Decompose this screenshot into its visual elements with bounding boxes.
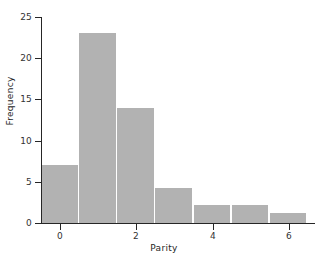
bar [155,188,192,223]
y-tick-mark [35,141,41,142]
y-tick-label: 0 [26,219,35,228]
y-tick-label: 5 [26,178,35,187]
plot-area [41,17,308,223]
histogram-figure: 0510152025 0246 Parity Frequency [0,0,328,254]
y-tick-mark [35,223,41,224]
x-tick-label: 4 [203,232,223,241]
x-tick-mark [213,224,214,230]
bar [270,213,307,223]
x-axis-line [41,223,315,224]
bar [41,165,78,223]
y-tick-label: 10 [20,137,35,146]
bar [117,108,154,223]
x-tick-label: 2 [126,232,146,241]
y-axis-label: Frequency [5,56,15,146]
y-tick-label: 25 [20,13,35,22]
y-tick-mark [35,58,41,59]
y-tick-label: 20 [20,54,35,63]
x-tick-mark [60,224,61,230]
bar [194,205,231,223]
y-tick-mark [35,99,41,100]
x-tick-label: 0 [50,232,70,241]
y-tick-mark [35,17,41,18]
bar [79,33,116,223]
y-tick-label: 15 [20,95,35,104]
x-tick-mark [136,224,137,230]
x-axis-label: Parity [0,243,328,253]
y-axis-line [41,17,42,223]
y-tick-mark [35,182,41,183]
bar [232,205,269,223]
x-tick-label: 6 [279,232,299,241]
x-tick-mark [289,224,290,230]
